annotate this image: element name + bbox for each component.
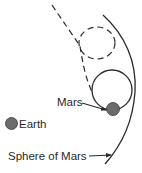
mars-sphere-diagram: Mars Earth Sphere of Mars	[0, 0, 142, 173]
mars-pointer-arrow	[82, 103, 106, 110]
approach-trajectory-dashed	[52, 5, 92, 92]
dashed-orbit-circle	[79, 27, 115, 59]
sphere-of-mars-arc	[103, 15, 135, 164]
earth-label: Earth	[19, 118, 47, 130]
sphere-of-mars-label: Sphere of Mars	[8, 150, 87, 162]
mars-label: Mars	[57, 96, 83, 108]
earth-planet-icon	[6, 118, 18, 130]
sphere-pointer-arrow	[89, 155, 111, 156]
mars-planet-icon	[107, 103, 120, 116]
